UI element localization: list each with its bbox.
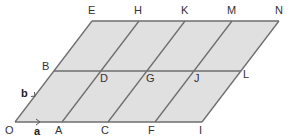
label-O: O: [5, 124, 14, 136]
label-A: A: [55, 124, 63, 136]
label-M: M: [227, 4, 236, 16]
label-J: J: [194, 72, 200, 84]
label-H: H: [134, 4, 142, 16]
label-C: C: [101, 124, 109, 136]
arrow-b-icon: [30, 92, 35, 97]
label-E: E: [88, 4, 95, 16]
label-L: L: [243, 68, 249, 80]
label-I: I: [199, 124, 202, 136]
parallelogram-grid-diagram: E H K M N B D G J L O A C F I a b: [0, 0, 292, 139]
label-K: K: [181, 4, 189, 16]
label-N: N: [275, 4, 283, 16]
label-vector-a: a: [34, 125, 41, 137]
label-F: F: [148, 124, 155, 136]
label-D: D: [100, 72, 108, 84]
label-G: G: [146, 72, 155, 84]
label-B: B: [42, 60, 49, 72]
label-vector-b: b: [21, 87, 28, 99]
